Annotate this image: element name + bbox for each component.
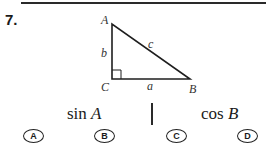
left-expression: sin A [67, 104, 101, 124]
triangle-figure: A C B b a c [0, 0, 266, 100]
right-expression-func: cos [201, 104, 224, 123]
right-angle-marker [112, 70, 121, 79]
answer-bubble-c[interactable]: C [166, 129, 187, 143]
vertex-label-a: A [101, 14, 108, 26]
left-expression-var: A [91, 104, 101, 123]
vertex-label-c: C [101, 81, 109, 93]
right-triangle-diagram [0, 0, 266, 100]
expression-divider [151, 103, 153, 125]
left-expression-func: sin [67, 104, 87, 123]
answer-bubble-b[interactable]: B [94, 129, 115, 143]
answer-bubble-d[interactable]: D [237, 129, 258, 143]
answer-bubble-a[interactable]: A [23, 129, 44, 143]
right-expression-var: B [228, 104, 238, 123]
right-expression: cos B [201, 104, 238, 124]
side-label-c: c [148, 38, 153, 50]
side-label-b: b [101, 47, 107, 59]
vertex-label-b: B [189, 83, 196, 95]
side-label-a: a [147, 80, 153, 92]
